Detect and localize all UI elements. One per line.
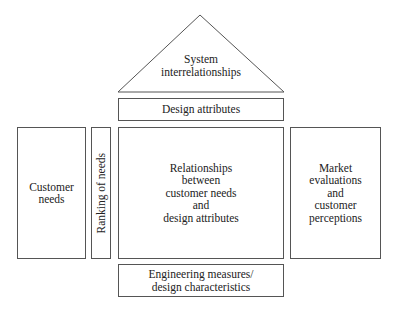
relationships-box: Relationships between customer needs and… <box>118 127 284 259</box>
roof-label: System interrelationships <box>118 53 284 79</box>
engineering-measures-label: Engineering measures/ design characteris… <box>148 268 253 293</box>
design-attributes-box: Design attributes <box>118 98 284 121</box>
ranking-label: Ranking of needs <box>95 153 108 233</box>
customer-needs-box: Customer needs <box>17 127 86 259</box>
ranking-box: Ranking of needs <box>91 127 111 259</box>
market-evaluations-box: Market evaluations and customer percepti… <box>290 127 381 259</box>
design-attributes-label: Design attributes <box>162 103 240 116</box>
engineering-measures-box: Engineering measures/ design characteris… <box>118 264 284 297</box>
customer-needs-label: Customer needs <box>29 181 74 206</box>
market-evaluations-label: Market evaluations and customer percepti… <box>309 162 362 225</box>
relationships-label: Relationships between customer needs and… <box>163 162 239 225</box>
